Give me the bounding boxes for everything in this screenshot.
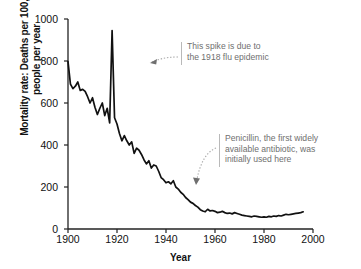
mortality-rate-chart: Mortality rate: Deaths per 100,000 peopl… bbox=[0, 0, 361, 269]
flu-annotation-text: This spike is due to the 1918 flu epidem… bbox=[187, 41, 357, 62]
flu-annotation-rule bbox=[181, 42, 182, 65]
penicillin-annotation-leader bbox=[193, 148, 216, 185]
penicillin-annotation-rule bbox=[219, 134, 220, 167]
penicillin-annotation-text: Penicillin, the first widely available a… bbox=[225, 133, 361, 165]
flu-annotation-leader bbox=[150, 57, 178, 65]
